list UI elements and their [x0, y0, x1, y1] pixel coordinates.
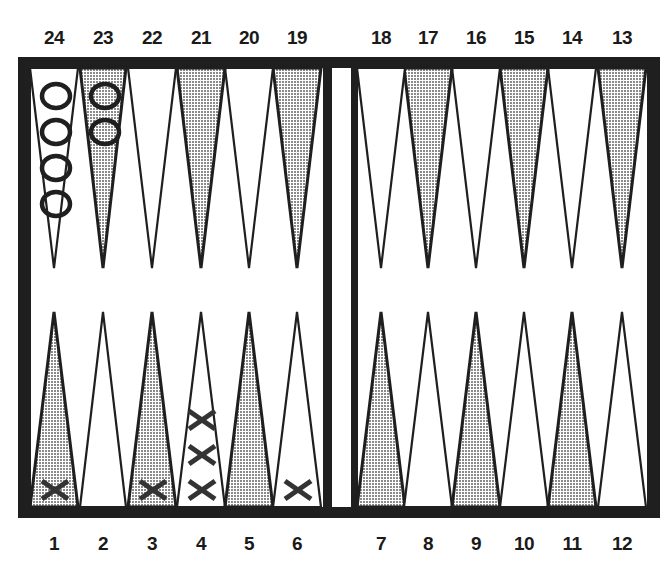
point-label-top: 16 [458, 27, 494, 49]
point-label-top: 22 [134, 27, 170, 49]
point-label-bottom: 12 [604, 533, 640, 555]
point-label-bottom: 6 [279, 533, 315, 555]
point-label-bottom: 10 [506, 533, 542, 555]
point-label-top: 21 [183, 27, 219, 49]
point-label-bottom: 4 [183, 533, 219, 555]
point-label-top: 15 [506, 27, 542, 49]
point-label-bottom: 2 [85, 533, 121, 555]
backgammon-board [0, 0, 672, 571]
point-label-bottom: 5 [231, 533, 267, 555]
point-label-top: 18 [363, 27, 399, 49]
point-label-top: 14 [554, 27, 590, 49]
point-label-bottom: 3 [134, 533, 170, 555]
point-label-top: 24 [36, 27, 72, 49]
point-label-top: 19 [279, 27, 315, 49]
point-label-bottom: 7 [363, 533, 399, 555]
point-label-bottom: 11 [554, 533, 590, 555]
point-label-top: 17 [410, 27, 446, 49]
left-board-area [31, 68, 323, 507]
point-label-bottom: 8 [410, 533, 446, 555]
point-label-top: 23 [85, 27, 121, 49]
point-label-top: 13 [604, 27, 640, 49]
bar [332, 68, 351, 507]
point-label-bottom: 1 [36, 533, 72, 555]
point-label-top: 20 [231, 27, 267, 49]
right-board-area [358, 68, 647, 507]
point-label-bottom: 9 [458, 533, 494, 555]
